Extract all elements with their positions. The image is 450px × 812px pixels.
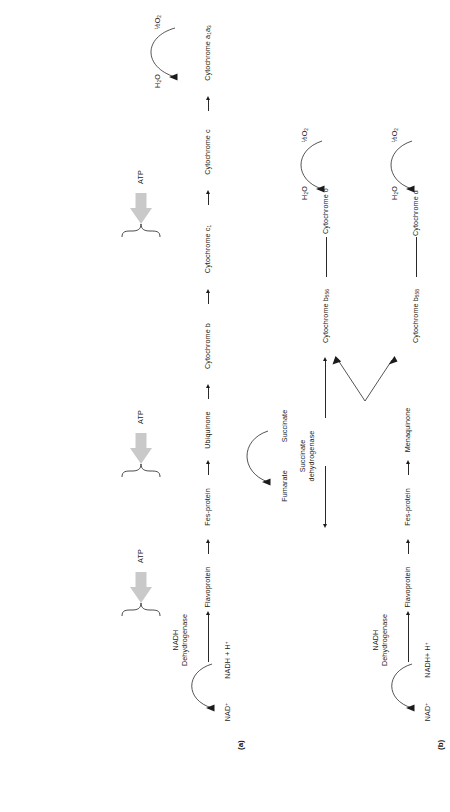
branch-head-upper	[333, 356, 342, 364]
atp-brace-3	[122, 224, 160, 237]
atp-arrow-1	[130, 572, 152, 603]
carrier-fes-protein-a: Fes-protein	[204, 488, 213, 525]
nad-curve-b	[392, 664, 412, 708]
succinate-curve	[247, 431, 268, 482]
chain-line-b-0	[408, 614, 409, 662]
succinate-label: Succinate	[281, 410, 290, 442]
chain-arrowhead-a-1	[206, 539, 210, 543]
chain-line-a-5	[208, 193, 209, 205]
nad-plus-label-b: NAD+	[424, 703, 433, 721]
chain-arrowhead-b-2	[406, 460, 410, 464]
chain-arrowhead-a-3	[206, 384, 210, 388]
enzyme-succinate-dehydrogenase: Succinate dehydrogenase	[299, 431, 317, 482]
branch-upper-link	[326, 237, 327, 277]
chain-arrowhead-b-0	[406, 611, 410, 615]
atp-label-1: ATP	[137, 549, 146, 563]
nad-curve-a-head	[206, 704, 215, 711]
chain-line-b-1	[408, 542, 409, 554]
oxygen-curve-b2	[391, 141, 412, 189]
nad-curve-b-head	[406, 704, 415, 711]
branch-line-upper	[338, 360, 365, 401]
chain-line-a-1	[208, 542, 209, 554]
enzyme-nadh-dehydrogenase-b: NADH Dehydrogenase	[372, 614, 390, 666]
fumarate-label: Fumarate	[281, 470, 290, 502]
etc-figure: (a) (b) NAD+ NADH + H+ NADH Dehydrogenas…	[0, 0, 450, 812]
chain-line-a-6	[208, 99, 209, 111]
nad-curve-a	[192, 664, 212, 708]
diagram-overlay	[0, 0, 450, 812]
oxygen-label-b2: ½O2	[391, 128, 400, 142]
carrier-cytochrome-aa3-a: Cytochrome a1a3	[204, 25, 213, 81]
chain-arrowhead-a-6	[206, 96, 210, 100]
panel-tag-b: (b)	[436, 740, 445, 750]
oxygen-curve-a	[151, 28, 175, 77]
chain-line-a-0	[208, 614, 209, 662]
sdh-arm-right	[325, 360, 326, 418]
oxygen-curve-a-head	[169, 73, 178, 80]
oxygen-curve-b1	[301, 141, 322, 189]
branch-lower-link	[416, 237, 417, 277]
water-label-b1: H2O	[301, 186, 310, 200]
carrier-cytochrome-b-a: Cytochrome b	[204, 323, 213, 369]
enzyme-nadh-dehydrogenase-a: NADH Dehydrogenase	[172, 614, 190, 666]
chain-line-a-4	[208, 292, 209, 304]
oxygen-label-b1: ½O2	[301, 128, 310, 142]
branch-head-lower	[389, 356, 398, 364]
chain-line-a-2	[208, 463, 209, 475]
atp-label-2: ATP	[137, 410, 146, 424]
chain-arrowhead-a-2	[206, 460, 210, 464]
water-label-a: H2O	[154, 74, 163, 88]
carrier-ubiquinone-a: Ubiquinone	[204, 411, 213, 448]
carrier-flavoprotein-a: Flavoprotein	[204, 567, 213, 608]
atp-label-3: ATP	[137, 170, 146, 184]
sdh-arm-left-head	[323, 524, 327, 528]
sdh-arm-left	[325, 466, 326, 524]
carrier-cytochrome-b556: Cytochrome b556	[322, 289, 331, 343]
sdh-arm-right-head	[323, 357, 327, 361]
carrier-flavoprotein-b: Flavoprotein	[404, 567, 413, 608]
carrier-cytochrome-b558: Cytochrome b558	[412, 289, 421, 343]
nad-plus-label-a: NAD+	[224, 703, 233, 721]
atp-brace-2	[122, 464, 160, 477]
atp-brace-1	[122, 603, 160, 616]
atp-arrow-3	[130, 193, 152, 224]
chain-arrowhead-a-4	[206, 289, 210, 293]
oxygen-label-a: ½O2	[154, 15, 163, 29]
chain-arrowhead-a-0	[206, 611, 210, 615]
nadh-label-a: NADH + H+	[224, 641, 233, 678]
chain-arrowhead-a-5	[206, 190, 210, 194]
chain-line-b-2	[408, 463, 409, 475]
chain-arrowhead-b-1	[406, 539, 410, 543]
chain-line-a-3	[208, 387, 209, 399]
carrier-fes-protein-b: Fes-protein	[404, 488, 413, 525]
carrier-cytochrome-d: Cytochrome d	[412, 190, 421, 236]
water-label-b2: H2O	[391, 186, 400, 200]
succinate-curve-head	[262, 478, 271, 485]
nadh-label-b: NADH+ H+	[424, 642, 433, 677]
panel-tag-a: (a)	[236, 740, 245, 750]
carrier-cytochrome-c1-a: Cytochrome c1	[204, 225, 213, 273]
carrier-menaquinone-b: Menaquinone	[404, 408, 413, 453]
carrier-cytochrome-o: Cytochrome o	[322, 188, 331, 234]
branch-line-lower	[365, 360, 392, 401]
carrier-cytochrome-c-a: Cytochrome c	[204, 129, 213, 175]
atp-arrow-2	[130, 433, 152, 464]
